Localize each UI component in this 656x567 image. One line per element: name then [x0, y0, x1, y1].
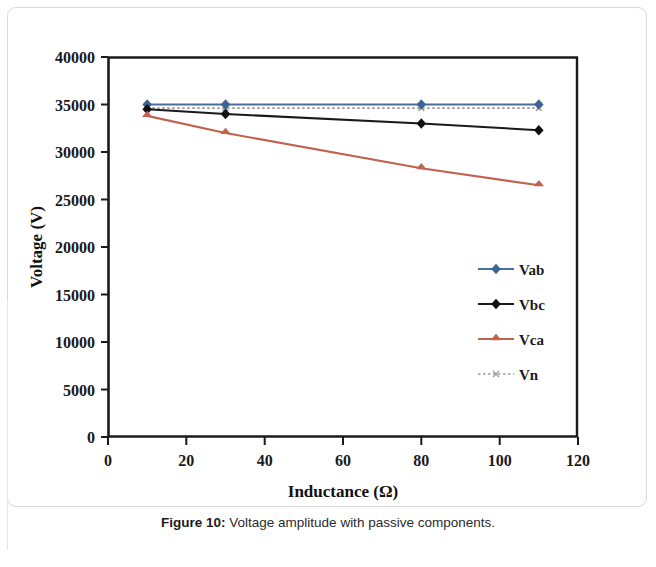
voltage-inductance-line-chart: 0 5000 10000 15000 20000 25000 30000 350… — [0, 0, 656, 510]
x-tick-label: 60 — [335, 452, 351, 469]
figure-caption-prefix: Figure 10: — [161, 515, 226, 530]
y-tick-label: 5000 — [63, 382, 95, 399]
x-axis-title: Inductance (Ω) — [288, 482, 398, 501]
legend-label-vn: Vn — [519, 367, 539, 383]
y-tick-label: 35000 — [55, 97, 95, 114]
y-tick-label: 25000 — [55, 192, 95, 209]
y-tick-label: 40000 — [55, 49, 95, 66]
y-axis-title: Voltage (V) — [27, 206, 46, 288]
y-axis-tick-labels: 0 5000 10000 15000 20000 25000 30000 350… — [55, 49, 95, 446]
figure-caption: Figure 10: Voltage amplitude with passiv… — [0, 515, 656, 530]
x-tick-label: 20 — [178, 452, 194, 469]
y-axis-ticks — [101, 57, 108, 437]
y-tick-label: 30000 — [55, 144, 95, 161]
x-tick-label: 0 — [104, 452, 112, 469]
x-tick-label: 80 — [413, 452, 429, 469]
x-tick-label: 100 — [488, 452, 512, 469]
x-axis-ticks — [108, 437, 578, 445]
legend-label-vca: Vca — [519, 332, 544, 348]
x-axis-tick-labels: 0 20 40 60 80 100 120 — [104, 452, 590, 469]
y-tick-label: 0 — [87, 429, 95, 446]
figure-container: 0 5000 10000 15000 20000 25000 30000 350… — [0, 0, 656, 567]
legend-label-vab: Vab — [519, 262, 544, 278]
y-tick-label: 15000 — [55, 287, 95, 304]
plot-axes — [108, 57, 578, 437]
x-tick-label: 120 — [566, 452, 590, 469]
x-tick-label: 40 — [257, 452, 273, 469]
y-tick-label: 20000 — [55, 239, 95, 256]
legend-label-vbc: Vbc — [519, 297, 545, 313]
figure-caption-text: Voltage amplitude with passive component… — [226, 515, 495, 530]
y-tick-label: 10000 — [55, 334, 95, 351]
